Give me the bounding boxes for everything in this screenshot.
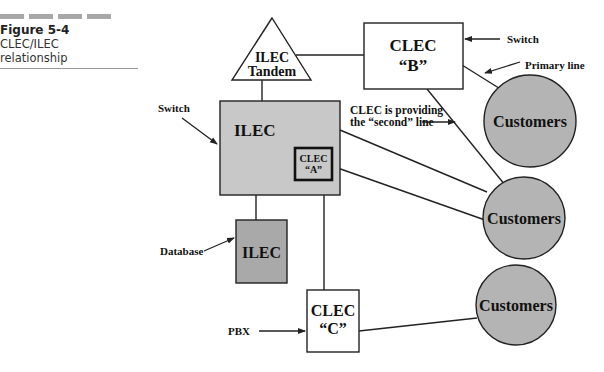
customers-3-label: Customers — [479, 297, 553, 314]
label-pbx: PBX — [228, 325, 250, 337]
ilec-database-label: ILEC — [242, 244, 281, 261]
node-clec-b: CLEC “B” — [364, 23, 463, 89]
node-clec-a: CLEC “A” — [295, 148, 332, 180]
clec-a-line-1: CLEC — [300, 153, 328, 164]
customers-1-label: Customers — [493, 113, 567, 130]
ilec-switch-label: ILEC — [234, 121, 276, 140]
customers-2-label: Customers — [487, 210, 561, 227]
ilec-tandem-line-1: ILEC — [255, 50, 289, 65]
node-customers-1: Customers — [484, 75, 576, 167]
ilec-tandem-line-2: Tandem — [248, 64, 297, 79]
arrow-database — [204, 238, 234, 251]
node-ilec-tandem: ILEC Tandem — [232, 18, 311, 80]
clec-b-line-2: “B” — [399, 56, 427, 75]
clec-b-line-1: CLEC — [389, 36, 436, 55]
line-clec-a-customers-2 — [332, 166, 485, 220]
clec-c-line-1: CLEC — [311, 302, 355, 319]
clec-c-line-2: “C” — [319, 320, 347, 337]
node-ilec-database: ILEC — [236, 220, 287, 283]
node-customers-2: Customers — [483, 177, 565, 259]
arrow-primary-line — [485, 62, 520, 73]
label-primary-line: Primary line — [525, 59, 585, 71]
line-clec-b-customers-1 — [462, 65, 502, 90]
clec-ilec-diagram: ILEC Tandem CLEC “B” ILEC CLEC “A” ILEC … — [0, 0, 604, 372]
label-switch-b: Switch — [507, 33, 539, 45]
node-customers-3: Customers — [476, 265, 556, 345]
clec-a-line-2: “A” — [305, 164, 322, 175]
node-clec-c: CLEC “C” — [307, 290, 359, 352]
line-ilec-customers-2 — [340, 130, 487, 192]
line-clec-c-customers-3 — [359, 318, 477, 331]
arrow-switch-ilec — [182, 118, 217, 144]
label-database: Database — [160, 245, 204, 257]
label-second-line-2: the “second” line — [350, 116, 434, 128]
label-switch-ilec: Switch — [158, 102, 190, 114]
